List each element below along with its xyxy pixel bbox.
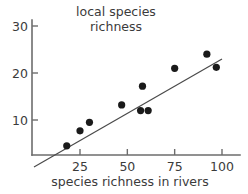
chart-container: local species richness 102030 255075100 … — [0, 0, 248, 194]
y-tick-label: 10 — [12, 113, 28, 128]
x-axis-label: species richness in rivers — [51, 174, 208, 189]
y-axis-ticks: 102030 — [12, 19, 38, 128]
data-point — [86, 119, 93, 126]
data-points-group — [63, 51, 220, 150]
x-tick-label: 100 — [210, 159, 234, 174]
x-tick-label: 50 — [119, 159, 135, 174]
data-point — [63, 142, 70, 149]
data-point — [145, 107, 152, 114]
data-point — [137, 107, 144, 114]
plot-title-line-1: local species — [76, 4, 156, 19]
data-point — [171, 65, 178, 72]
plot-title-line-2: richness — [90, 19, 142, 34]
data-point — [76, 127, 83, 134]
x-tick-label: 25 — [72, 159, 88, 174]
x-axis-ticks: 255075100 — [72, 149, 234, 174]
data-point — [139, 83, 146, 90]
scatter-plot: local species richness 102030 255075100 … — [0, 0, 248, 194]
axes-group — [32, 20, 240, 155]
x-tick-label: 75 — [167, 159, 183, 174]
data-point — [118, 101, 125, 108]
plot-title-group: local species richness — [76, 4, 156, 34]
y-tick-label: 20 — [12, 66, 28, 81]
y-tick-label: 30 — [12, 19, 28, 34]
data-point — [203, 51, 210, 58]
data-point — [213, 64, 220, 71]
